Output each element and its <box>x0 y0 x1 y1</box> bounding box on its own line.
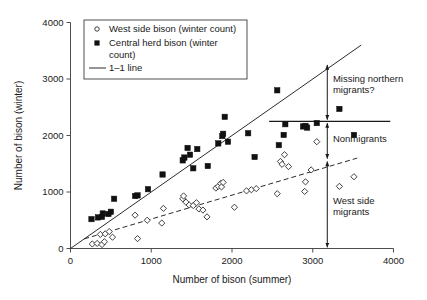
data-points-group <box>89 88 357 248</box>
y-tick-label: 3000 <box>42 73 63 84</box>
x-tick-label: 1000 <box>141 255 162 266</box>
y-axis-title: Number of bison (winter) <box>13 81 24 190</box>
data-point-west-side <box>160 205 166 211</box>
data-point-central-herd <box>281 132 286 137</box>
data-point-west-side <box>231 204 237 210</box>
data-point-west-side <box>159 220 165 226</box>
series-central-herd-bison <box>89 88 357 222</box>
x-tick-label: 4000 <box>383 255 404 266</box>
y-tick-label: 2000 <box>42 130 63 141</box>
data-point-central-herd <box>276 142 281 147</box>
data-point-west-side <box>302 179 308 185</box>
y-tick-label: 0 <box>58 243 63 254</box>
annotation-nonmigrants: Nonmigrants <box>327 123 387 159</box>
false <box>94 40 99 45</box>
data-point-central-herd <box>89 216 94 221</box>
chart-canvas: 0100020003000400001000200030004000Number… <box>0 0 427 300</box>
annotations-group: Missing northernmigrants?NonmigrantsWest… <box>327 65 403 247</box>
data-point-west-side <box>274 191 280 197</box>
data-point-central-herd <box>182 155 187 160</box>
x-tick-label: 2000 <box>221 255 242 266</box>
annotation-label-line2: migrants <box>333 206 370 217</box>
data-point-central-herd <box>283 122 288 127</box>
annotation-label-line1: West side <box>333 195 375 206</box>
data-point-central-herd <box>100 211 105 216</box>
data-point-central-herd <box>108 209 113 214</box>
west-side-trend-line <box>84 158 357 239</box>
data-point-west-side <box>285 163 291 169</box>
data-point-central-herd <box>275 88 280 93</box>
data-point-central-herd <box>222 114 227 119</box>
data-point-central-herd <box>111 196 116 201</box>
data-point-west-side <box>109 234 115 240</box>
y-axis-title-group: Number of bison (winter) <box>13 81 24 190</box>
series-west-side-bison <box>89 139 357 248</box>
bison-scatter-figure: 0100020003000400001000200030004000Number… <box>0 0 427 300</box>
legend-label-line1: 1–1 line <box>109 62 142 73</box>
legend-label-line2: count) <box>109 49 135 60</box>
false <box>95 27 99 31</box>
data-point-west-side <box>204 214 210 220</box>
data-point-central-herd <box>216 141 221 146</box>
y-tick-label: 4000 <box>42 17 63 28</box>
x-axis-title: Number of bison (summer) <box>173 274 292 285</box>
data-point-central-herd <box>252 154 257 159</box>
data-point-central-herd <box>195 146 200 151</box>
data-point-central-herd <box>187 152 192 157</box>
data-point-central-herd <box>185 145 190 150</box>
data-point-central-herd <box>205 163 210 168</box>
data-point-central-herd <box>220 131 225 136</box>
data-point-central-herd <box>145 186 150 191</box>
data-point-central-herd <box>314 120 319 125</box>
annotation-label-line2: migrants? <box>333 84 375 95</box>
data-point-west-side <box>302 188 308 194</box>
legend-entry-0[interactable]: West side bison (winter count) <box>95 23 236 34</box>
data-point-central-herd <box>225 139 230 144</box>
annotation-label-line1: Missing northern <box>333 73 403 84</box>
legend-label-line1: West side bison (winter count) <box>109 23 236 34</box>
annotation-label-line1: Nonmigrants <box>333 133 387 144</box>
data-point-west-side <box>336 183 342 189</box>
data-point-west-side <box>351 174 357 180</box>
data-point-central-herd <box>304 125 309 130</box>
data-point-central-herd <box>135 193 140 198</box>
x-tick-label: 3000 <box>302 255 323 266</box>
data-point-west-side <box>132 212 138 218</box>
data-point-west-side <box>314 139 320 145</box>
data-point-central-herd <box>245 131 250 136</box>
x-tick-label: 0 <box>68 255 73 266</box>
legend: West side bison (winter count)Central he… <box>84 20 247 79</box>
data-point-west-side <box>134 236 140 242</box>
data-point-central-herd <box>337 106 342 111</box>
data-point-west-side <box>144 217 150 223</box>
data-point-central-herd <box>191 166 196 171</box>
data-point-central-herd <box>160 172 165 177</box>
data-point-west-side <box>281 152 287 158</box>
legend-label-line1: Central herd bison (winter <box>109 37 218 48</box>
annotation-west-side-migrants: West sidemigrants <box>327 161 374 247</box>
y-tick-label: 1000 <box>42 186 63 197</box>
